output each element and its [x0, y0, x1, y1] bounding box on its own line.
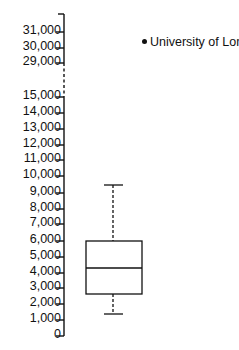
y-tick-label: 14,000 [23, 104, 61, 118]
y-tick-label: 3,000 [30, 279, 61, 293]
y-tick-label: 2,000 [30, 295, 61, 309]
box-plot [86, 185, 142, 314]
y-tick-label: 12,000 [23, 136, 61, 150]
y-tick-label: 11,000 [24, 151, 61, 165]
y-tick-label: 15,000 [23, 88, 61, 102]
y-tick-label: 0 [54, 327, 61, 341]
y-tick-label: 8,000 [30, 200, 61, 214]
legend-label: University of London [150, 35, 239, 49]
y-tick-label: 31,000 [23, 23, 61, 37]
y-tick-label: 4,000 [30, 264, 61, 278]
y-tick-label: 9,000 [30, 184, 61, 198]
legend: University of London [142, 35, 239, 49]
y-tick-label: 13,000 [23, 120, 61, 134]
y-tick-label: 10,000 [23, 167, 61, 181]
y-tick-label: 30,000 [23, 39, 61, 53]
y-tick-label: 29,000 [23, 54, 61, 68]
y-tick-label: 1,000 [30, 311, 61, 325]
y-tick-label: 6,000 [30, 232, 61, 246]
y-tick-label: 5,000 [30, 248, 61, 262]
y-tick-label: 7,000 [30, 215, 61, 229]
outlier-dot-icon [142, 39, 147, 44]
